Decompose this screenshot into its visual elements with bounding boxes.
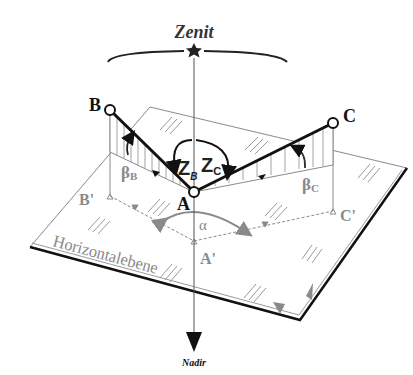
star-icon xyxy=(186,43,202,58)
nadir-label: Nadir xyxy=(181,357,206,368)
point-A-marker xyxy=(189,187,199,197)
label-A: A xyxy=(177,194,190,214)
label-alpha: α xyxy=(199,217,207,233)
label-C: C xyxy=(343,106,356,126)
label-A-prime: A' xyxy=(200,250,216,267)
label-C-prime: C' xyxy=(340,207,356,224)
point-B-marker xyxy=(105,105,115,115)
zenith-label: Zenit xyxy=(174,22,215,42)
nadir-arrow-icon xyxy=(186,332,202,352)
label-B-prime: B' xyxy=(79,191,94,208)
diagram-canvas: Zenit Nadir B C A B' C' A' α ZB ZC βB βC… xyxy=(0,0,413,375)
label-B: B xyxy=(89,95,101,115)
point-C-marker xyxy=(328,118,338,128)
